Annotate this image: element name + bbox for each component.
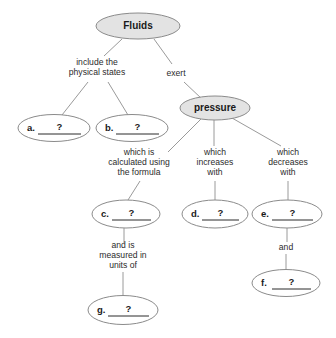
edge-exert-to-pressure bbox=[184, 82, 202, 99]
blank-question-e: ? bbox=[290, 207, 296, 218]
node-label-fluids: Fluids bbox=[123, 20, 153, 31]
blank-question-g: ? bbox=[126, 303, 132, 314]
node-a: a.? bbox=[18, 115, 90, 142]
connector-label-and-is-measured-in-units-of: and ismeasured inunits of bbox=[99, 240, 147, 270]
connector-label-line: calculated using bbox=[108, 157, 170, 167]
connector-label-include-the-physical-states: include thephysical states bbox=[69, 57, 125, 77]
connector-label-line: with bbox=[279, 167, 296, 177]
connector-label-line: with bbox=[206, 167, 223, 177]
blank-letter-c: c. bbox=[101, 208, 109, 219]
node-fluids: Fluids bbox=[96, 13, 180, 39]
connector-label-and: and bbox=[279, 242, 294, 252]
connector-label-line: measured in bbox=[99, 250, 147, 260]
blank-letter-e: e. bbox=[261, 208, 269, 219]
connector-label-line: include the bbox=[76, 57, 118, 67]
blank-question-d: ? bbox=[218, 207, 224, 218]
connector-label-line: decreases bbox=[268, 157, 308, 167]
edge-states-to-b bbox=[108, 82, 128, 115]
concept-map-canvas: Fluidspressurea.?b.?c.?d.?e.?f.?g.? incl… bbox=[0, 0, 336, 338]
blank-letter-b: b. bbox=[105, 122, 113, 133]
edge-fluids-to-exert-label bbox=[154, 39, 172, 64]
connector-label-line: which bbox=[203, 147, 226, 157]
node-pressure: pressure bbox=[180, 96, 250, 120]
node-c: c.? bbox=[92, 200, 160, 228]
connector-label-line: units of bbox=[109, 260, 137, 270]
edge-pressure-to-decreases bbox=[232, 118, 281, 146]
connector-label-which-increases-with: whichincreaseswith bbox=[197, 147, 234, 177]
connector-label-line: physical states bbox=[69, 67, 125, 77]
nodes-layer: Fluidspressurea.?b.?c.?d.?e.?f.?g.? bbox=[18, 13, 322, 325]
connector-label-line: increases bbox=[197, 157, 234, 167]
blank-letter-g: g. bbox=[97, 304, 105, 315]
connector-labels-layer: include thephysical statesexertwhich isc… bbox=[69, 57, 308, 270]
connector-label-line: exert bbox=[166, 68, 186, 78]
connector-label-exert: exert bbox=[166, 68, 186, 78]
blank-question-f: ? bbox=[289, 276, 295, 287]
node-f: f.? bbox=[252, 270, 320, 297]
connector-label-line: and is bbox=[112, 240, 135, 250]
blank-letter-a: a. bbox=[27, 122, 35, 133]
connector-label-line: which is bbox=[123, 147, 155, 157]
blank-question-c: ? bbox=[129, 207, 135, 218]
node-d: d.? bbox=[182, 200, 248, 228]
connector-label-line: and bbox=[279, 242, 294, 252]
blank-letter-f: f. bbox=[261, 277, 267, 288]
node-b: b.? bbox=[96, 115, 168, 142]
concept-map-diagram: Fluidspressurea.?b.?c.?d.?e.?f.?g.? incl… bbox=[0, 0, 336, 338]
edge-formula-to-c bbox=[128, 181, 140, 200]
node-e: e.? bbox=[252, 200, 322, 228]
node-label-pressure: pressure bbox=[194, 102, 237, 113]
connector-label-which-decreases-with: whichdecreaseswith bbox=[268, 147, 308, 177]
connector-label-which-is-calculated: which iscalculated usingthe formula bbox=[108, 147, 170, 177]
blank-letter-d: d. bbox=[191, 208, 199, 219]
blank-question-a: ? bbox=[57, 121, 63, 132]
edge-fluids-to-states-label bbox=[104, 39, 122, 56]
node-g: g.? bbox=[88, 296, 158, 325]
connector-label-line: which bbox=[276, 147, 299, 157]
blank-question-b: ? bbox=[135, 121, 141, 132]
connector-label-line: the formula bbox=[118, 167, 161, 177]
edge-states-to-a bbox=[62, 82, 88, 115]
edge-pressure-to-formula bbox=[168, 119, 201, 152]
